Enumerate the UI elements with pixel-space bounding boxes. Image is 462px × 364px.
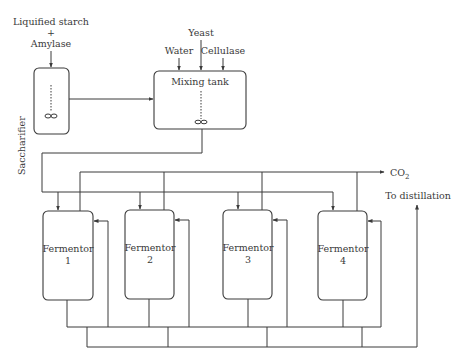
feed-header-line: [42, 129, 333, 192]
water-label: Water: [165, 45, 194, 56]
mixing-tank-label: Mixing tank: [171, 76, 229, 87]
fermentor-4-label: Fermentor: [317, 243, 369, 254]
fermentor-4-number: 4: [340, 255, 346, 266]
co2-label: CO2: [390, 167, 410, 181]
fermentor-1: Fermentor 1: [42, 211, 94, 300]
fermentor-2-label: Fermentor: [124, 242, 176, 253]
mixing-tank: Mixing tank: [154, 71, 246, 129]
cellulase-label: Cellulase: [201, 45, 246, 56]
fermentor-2: Fermentor 2: [124, 210, 176, 299]
recycle-arrow-fermentor-1: [94, 221, 108, 327]
yeast-label: Yeast: [187, 27, 214, 38]
to-distillation-label: To distillation: [385, 190, 451, 201]
plus-sign-label: +: [47, 27, 55, 38]
fermentor-1-label: Fermentor: [42, 243, 94, 254]
fermentor-1-number: 1: [65, 255, 71, 266]
saccharifier-label: Saccharifier: [16, 116, 27, 175]
liquified-starch-label: Liquified starch: [13, 16, 89, 27]
recycle-arrow-fermentor-3: [273, 220, 287, 327]
saccharifier-tank: [34, 68, 69, 134]
fermentor-2-number: 2: [147, 254, 153, 265]
amylase-label: Amylase: [30, 38, 72, 49]
fermentor-3: Fermentor 3: [222, 210, 274, 299]
recycle-arrow-fermentor-2: [175, 220, 189, 327]
fermentor-3-number: 3: [245, 254, 251, 265]
fermentor-3-label: Fermentor: [222, 242, 274, 253]
recycle-arrow-fermentor-4: [368, 221, 381, 327]
fermentor-4: Fermentor 4: [317, 211, 369, 300]
fermentation-process-diagram: Liquified starch + Amylase Saccharifier …: [0, 0, 462, 364]
